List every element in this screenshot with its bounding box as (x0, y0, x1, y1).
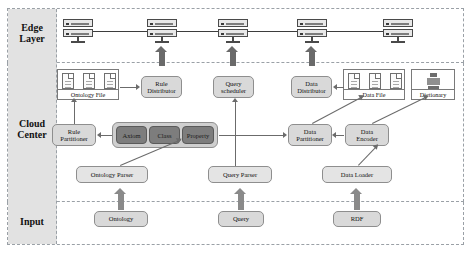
data-distributor-to-edge-arrow (305, 46, 318, 66)
cloud-center-label: Cloud Center (8, 118, 56, 140)
ontologyfile-to-ruledistributor-arrow (136, 84, 140, 90)
dataencoder-to-datapartitioner-arrow (332, 132, 336, 138)
rdf-input-box: RDF (333, 211, 381, 227)
cloud-center-label-line1: Cloud (8, 118, 56, 129)
data-file-box: Data File (343, 69, 405, 100)
cloud-center-label-line2: Center (8, 129, 56, 140)
data-distributor-box: Data Distributor (291, 76, 332, 98)
architecture-diagram: Edge Layer Cloud Center Input (0, 0, 471, 253)
rulepartitioner-to-ontologyfile-line (74, 101, 75, 124)
queryparser-to-queryscheduler-line (235, 101, 236, 166)
rule-distributor-box: Rule Distributor (141, 76, 182, 98)
data-encoder-label-line2: Encoder (356, 135, 378, 143)
document-icon-5 (369, 73, 381, 89)
ontology-file-box: Ontology File (57, 69, 119, 100)
query-to-parser-arrow (234, 188, 247, 210)
datafile-to-datadistributor-line (337, 87, 344, 88)
components-to-datapartitioner-arrow (283, 132, 287, 138)
ontologyfile-to-ruledistributor-line (120, 87, 136, 88)
query-parser-box: Query Parser (208, 166, 272, 183)
data-encoder-box: Data Encoder (345, 124, 389, 146)
datafile-to-datadistributor-arrow (333, 84, 337, 90)
data-distributor-label-line2: Distributor (297, 87, 326, 95)
ontology-input-box: Ontology (94, 211, 148, 227)
rulepartitioner-to-ontologyfile-arrow (71, 98, 77, 102)
rule-partitioner-box: Rule Partitioner (52, 124, 96, 146)
server-icon-5 (383, 19, 413, 45)
server-icon-3 (218, 19, 248, 45)
axiom-chip: Axiom (116, 126, 147, 144)
edge-layer-label: Edge Layer (8, 22, 56, 44)
property-chip: Property (182, 126, 214, 144)
document-icon-6 (390, 73, 402, 89)
edge-layer-label-line2: Layer (8, 33, 56, 44)
ontology-file-label: Ontology File (58, 89, 118, 99)
dictionary-label: Dictionary (412, 89, 454, 99)
ontology-parser-box: Ontology Parser (76, 166, 148, 183)
data-file-label: Data File (344, 89, 404, 99)
query-input-box: Query (218, 211, 264, 227)
document-icon-3 (104, 73, 116, 89)
data-distributor-label-line1: Data (305, 80, 317, 88)
data-partitioner-box: Data Partitioner (288, 124, 332, 146)
data-encoder-label-line1: Data (361, 128, 373, 136)
dictionary-box: Dictionary (411, 69, 455, 100)
document-icon-1 (62, 73, 74, 89)
queryparser-to-queryscheduler-arrow (232, 98, 238, 102)
dictionary-icon (427, 73, 440, 90)
query-scheduler-box: Query scheduler (213, 76, 254, 98)
input-layer-label: Input (8, 216, 56, 227)
components-to-datapartitioner-line (219, 135, 283, 136)
edge-layer-label-line1: Edge (8, 22, 56, 33)
rule-partitioner-label-line1: Rule (68, 128, 80, 136)
rule-partitioner-label-line2: Partitioner (60, 135, 87, 143)
server-icon-2 (147, 19, 177, 45)
ontology-to-parser-arrow (114, 188, 127, 210)
rule-distributor-to-edge-arrow (155, 46, 168, 66)
server-icon-4 (297, 19, 327, 45)
rule-distributor-label-line1: Rule (155, 80, 167, 88)
data-loader-box: Data Loader (322, 166, 392, 183)
rule-distributor-label-line2: Distributor (147, 87, 176, 95)
query-scheduler-label-line2: scheduler (221, 87, 246, 95)
components-to-rulepartitioner-line (101, 135, 112, 136)
server-icon-1 (63, 19, 93, 45)
components-to-rulepartitioner-arrow (97, 132, 101, 138)
data-partitioner-label-line2: Partitioner (296, 135, 323, 143)
dataencoder-to-datapartitioner-line (336, 135, 344, 136)
data-partitioner-label-line1: Data (304, 128, 316, 136)
document-icon-4 (348, 73, 360, 89)
query-scheduler-label-line1: Query (225, 80, 241, 88)
query-scheduler-to-edge-arrow (226, 46, 239, 66)
rdf-to-dataloader-arrow (350, 188, 363, 210)
document-icon-2 (83, 73, 95, 89)
